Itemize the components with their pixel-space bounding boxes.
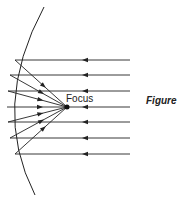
arrow-left-icon	[82, 73, 88, 77]
focus-point	[65, 105, 70, 110]
mirror-ray-diagram: Focus Figure	[0, 0, 184, 200]
arrow-toward-focus-icon	[37, 105, 43, 109]
arrow-left-icon	[82, 105, 88, 109]
arrow-left-icon	[82, 152, 88, 156]
concave-mirror	[15, 7, 44, 195]
focus-label: Focus	[66, 93, 93, 104]
arrow-left-icon	[82, 136, 88, 140]
arrow-toward-focus-icon	[38, 118, 45, 125]
figure-label: Figure	[146, 95, 177, 106]
arrow-toward-focus-icon	[38, 89, 45, 96]
arrow-left-icon	[82, 58, 88, 62]
arrow-toward-focus-icon	[37, 97, 44, 103]
arrow-left-icon	[82, 120, 88, 124]
arrow-toward-focus-icon	[37, 111, 44, 117]
